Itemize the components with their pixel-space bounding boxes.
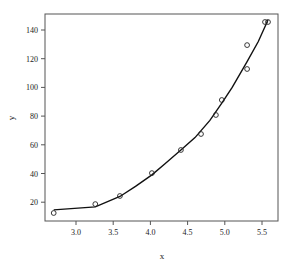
y-tick-label: 140 — [26, 26, 38, 35]
y-tick-label: 80 — [30, 112, 38, 121]
data-points — [51, 20, 270, 216]
x-tick-label: 4.0 — [145, 228, 155, 237]
data-point — [93, 202, 98, 207]
data-point — [245, 43, 250, 48]
y-tick-label: 40 — [30, 170, 38, 179]
y-tick-label: 60 — [30, 141, 38, 150]
y-tick-label: 100 — [26, 83, 38, 92]
y-tick-label: 20 — [30, 198, 38, 207]
y-tick-label: 120 — [26, 55, 38, 64]
data-point — [199, 132, 204, 137]
fitted-curve — [54, 20, 268, 210]
x-tick-label: 4.5 — [183, 228, 193, 237]
y-axis-label: y — [6, 115, 16, 120]
x-tick-label: 5.5 — [257, 228, 267, 237]
x-axis: 3.03.54.04.55.05.5 — [71, 221, 267, 237]
y-axis: 20406080100120140 — [26, 26, 45, 207]
data-point — [51, 211, 56, 216]
x-axis-label: x — [160, 251, 165, 261]
x-tick-label: 3.0 — [71, 228, 81, 237]
data-point — [245, 67, 250, 72]
x-tick-label: 3.5 — [108, 228, 118, 237]
x-tick-label: 5.0 — [220, 228, 230, 237]
scatter-chart: 3.03.54.04.55.05.5 20406080100120140 x y — [0, 0, 289, 271]
plot-frame — [45, 14, 278, 221]
